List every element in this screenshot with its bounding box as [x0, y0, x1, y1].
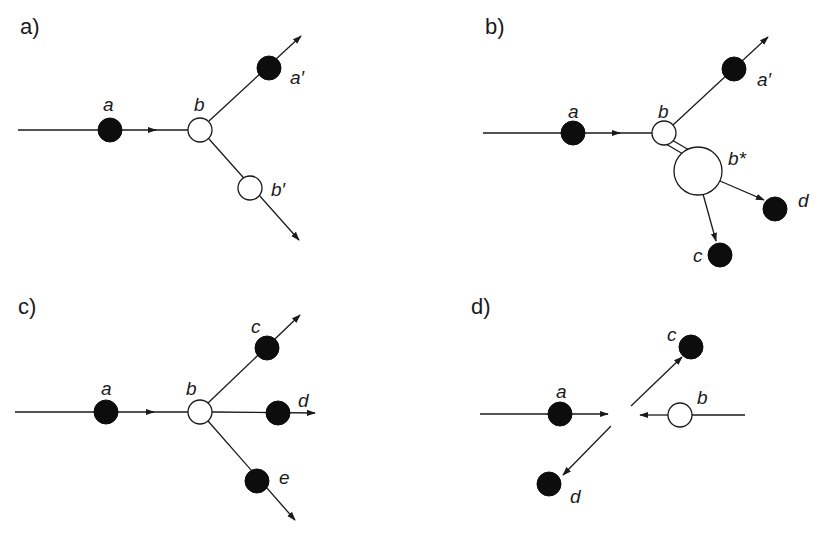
- panel-a: a) a b a′ b′: [18, 14, 306, 240]
- panel-d: d) a b c d: [471, 294, 745, 507]
- particle-interaction-diagram: a) a b a′ b′ b): [0, 0, 822, 538]
- particle-a: [561, 121, 585, 145]
- label-c: c: [251, 316, 261, 337]
- outgoing-arrow-a-prime: [209, 36, 301, 121]
- particle-d: [763, 197, 787, 221]
- panel-a-title: a): [20, 14, 40, 39]
- particle-b: [668, 403, 692, 427]
- particle-a: [548, 402, 572, 426]
- panel-c: c) a b c d e: [15, 294, 315, 520]
- label-a: a: [103, 94, 114, 115]
- particle-a-prime: [257, 56, 281, 80]
- label-b: b: [186, 378, 197, 399]
- outgoing-arrow-c: [631, 357, 682, 406]
- particle-c: [708, 243, 732, 267]
- label-e: e: [279, 467, 290, 488]
- particle-b-star: [674, 147, 722, 195]
- particle-c: [679, 335, 703, 359]
- panel-b-title: b): [485, 14, 505, 39]
- outgoing-arrow-d: [563, 426, 611, 475]
- label-b: b: [697, 387, 708, 408]
- particle-e: [245, 469, 269, 493]
- label-b: b: [194, 94, 205, 115]
- particle-a: [98, 118, 122, 142]
- particle-c: [255, 336, 279, 360]
- particle-b: [652, 121, 676, 145]
- panel-d-title: d): [471, 294, 491, 319]
- particle-a-prime: [722, 57, 746, 81]
- label-b-star: b*: [728, 148, 747, 169]
- label-c: c: [667, 324, 677, 345]
- particle-b-prime: [238, 176, 262, 200]
- label-c: c: [693, 245, 703, 266]
- particle-b: [188, 118, 212, 142]
- label-b-prime: b′: [271, 179, 287, 200]
- particle-b: [188, 400, 212, 424]
- label-a-prime: a′: [757, 69, 773, 90]
- label-d: d: [298, 390, 310, 411]
- particle-a: [94, 400, 118, 424]
- particle-d: [266, 401, 290, 425]
- arrow-to-d: [720, 181, 764, 200]
- label-a: a: [568, 101, 579, 122]
- label-a-prime: a′: [290, 67, 306, 88]
- arrow-to-c: [703, 194, 716, 241]
- panel-b: b) a b a′ b* d c: [483, 14, 810, 267]
- panel-c-title: c): [18, 294, 36, 319]
- label-a: a: [556, 381, 567, 402]
- particle-d: [537, 472, 561, 496]
- outgoing-arrow-a-prime: [673, 37, 768, 125]
- outgoing-arrow-d: [212, 412, 315, 413]
- label-d: d: [798, 190, 810, 211]
- label-a: a: [101, 378, 112, 399]
- label-d: d: [570, 486, 582, 507]
- label-b: b: [658, 101, 669, 122]
